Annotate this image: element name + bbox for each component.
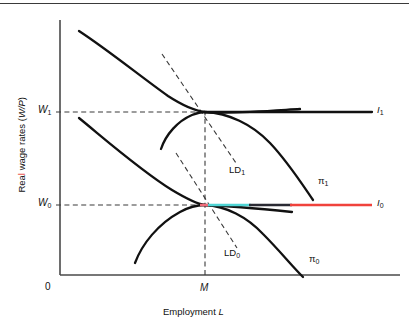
x-axis-title: Employment L (163, 307, 224, 317)
origin-label: 0 (45, 282, 51, 292)
x-axis-title-italic: L (218, 306, 223, 317)
y-tick-label-w0: W0 (38, 198, 51, 208)
y-tick-label-w0-sub: 0 (47, 202, 51, 209)
plot-canvas (0, 0, 409, 329)
curve-label-i0: I0 (377, 198, 384, 208)
y-axis-title-red-letter: l (16, 173, 27, 175)
curve-label-pi0: π0 (309, 254, 319, 264)
curve-label-ld0: LD0 (224, 248, 240, 258)
curve-label-pi1-sub: 1 (325, 180, 329, 187)
curve-label-pi0-sub: 0 (316, 258, 320, 265)
y-tick-label-w1: W1 (38, 105, 51, 115)
ld1-dashed-locus (162, 54, 236, 163)
x-tick-label-m: M (200, 283, 208, 293)
curve-label-i1-sub: 1 (380, 109, 384, 116)
ld0-dashed-locus (176, 153, 237, 248)
curve-label-pi1-base: π (318, 175, 325, 186)
curve-label-ld1: LD1 (229, 165, 245, 175)
ld1-demand-curve (79, 31, 300, 113)
curve-label-ld0-base: LD (224, 247, 236, 258)
pi0-isoprofit-curve (135, 205, 303, 277)
curve-label-ld0-sub: 0 (236, 252, 240, 259)
curve-label-i0-sub: 0 (380, 202, 384, 209)
ld0-demand-curve (79, 118, 292, 212)
y-axis-title-suffix: ) (16, 97, 27, 100)
curve-label-ld1-sub: 1 (241, 169, 245, 176)
x-axis-title-text: Employment (163, 306, 218, 317)
curve-label-pi0-base: π (309, 253, 316, 264)
curve-label-pi1: π1 (318, 176, 328, 186)
y-tick-label-w1-sub: 1 (47, 109, 51, 116)
y-axis-title: Real wage rates (W/P) (17, 65, 27, 225)
y-axis-title-prefix: Rea (16, 175, 27, 192)
curve-label-ld1-base: LD (229, 164, 241, 175)
y-axis-title-italic: W/P (16, 100, 27, 118)
pi1-isoprofit-curve (161, 112, 313, 200)
economics-figure: Real wage rates (W/P) Employment L 0 W1 … (0, 0, 409, 329)
y-axis-title-middle: wage rates ( (16, 118, 27, 173)
curve-label-i1: I1 (377, 105, 384, 115)
